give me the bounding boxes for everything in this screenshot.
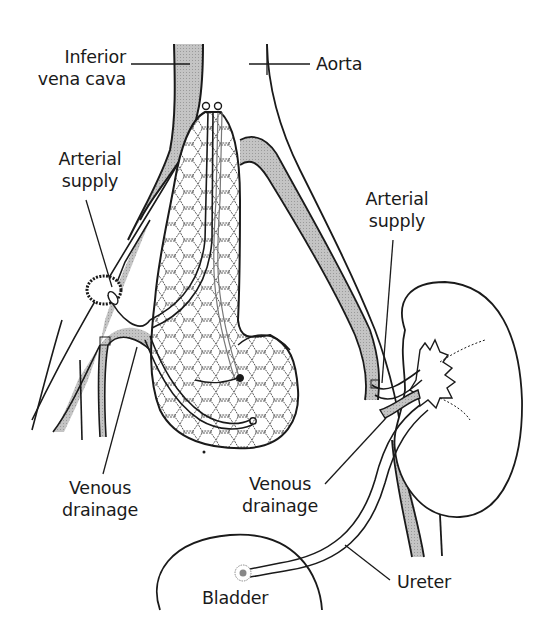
arterial-anastomosis-left bbox=[87, 276, 150, 326]
label-line: drainage bbox=[235, 495, 325, 517]
leader-arterial-right bbox=[382, 240, 393, 383]
label-line: Aorta bbox=[316, 53, 362, 75]
label-line: Venous bbox=[55, 477, 145, 499]
label-inferior-vena-cava: Inferior vena cava bbox=[30, 46, 126, 90]
label-bladder: Bladder bbox=[202, 587, 268, 609]
kidney-graft bbox=[371, 282, 522, 517]
iliac-vessels-left bbox=[32, 220, 158, 440]
label-arterial-supply-right: Arterial supply bbox=[357, 188, 437, 232]
label-line: Bladder bbox=[202, 587, 268, 609]
label-line: supply bbox=[50, 170, 130, 192]
label-line: supply bbox=[357, 210, 437, 232]
label-venous-drainage-left: Venous drainage bbox=[55, 477, 145, 521]
label-aorta: Aorta bbox=[316, 53, 362, 75]
label-line: Venous bbox=[235, 473, 325, 495]
label-ureter: Ureter bbox=[397, 571, 451, 593]
label-line: Inferior bbox=[30, 46, 126, 68]
anatomy-illustration bbox=[0, 0, 550, 640]
label-line: Ureter bbox=[397, 571, 451, 593]
label-line: Arterial bbox=[50, 148, 130, 170]
label-line: drainage bbox=[55, 499, 145, 521]
leader-ureter bbox=[345, 545, 390, 580]
label-arterial-supply-left: Arterial supply bbox=[50, 148, 130, 192]
leader-venous-left bbox=[103, 347, 137, 474]
leader-arterial-left bbox=[86, 200, 112, 287]
label-line: Arterial bbox=[357, 188, 437, 210]
diagram-canvas: Inferior vena cava Aorta Arterial supply… bbox=[0, 0, 550, 640]
label-line: vena cava bbox=[30, 68, 126, 90]
label-venous-drainage-right: Venous drainage bbox=[235, 473, 325, 517]
